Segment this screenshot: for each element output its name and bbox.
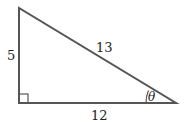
hypotenuse-label: 13 bbox=[96, 40, 113, 55]
angle-label: θ bbox=[148, 90, 156, 104]
horizontal-leg-label: 12 bbox=[91, 108, 108, 122]
right-triangle bbox=[19, 8, 176, 103]
triangle-diagram: 5 13 12 θ bbox=[0, 0, 185, 122]
vertical-leg-label: 5 bbox=[7, 48, 15, 63]
right-angle-marker bbox=[19, 94, 28, 103]
